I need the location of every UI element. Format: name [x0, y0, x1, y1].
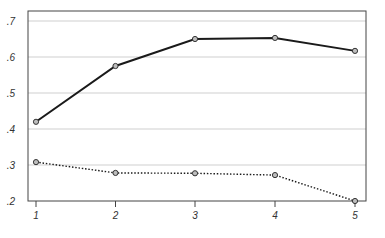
- data-point-marker: [272, 172, 277, 177]
- y-tick-label: .6: [7, 52, 16, 63]
- series-line: [36, 38, 355, 122]
- series-2: [33, 160, 357, 204]
- x-tick-label: 5: [352, 210, 358, 221]
- x-tick-label: 1: [33, 210, 39, 221]
- y-tick-label: .7: [7, 16, 16, 27]
- series-line: [36, 162, 355, 201]
- data-point-marker: [192, 36, 197, 41]
- x-axis-ticks: 12345: [33, 201, 358, 221]
- y-tick-label: .4: [7, 124, 16, 135]
- x-tick-label: 4: [272, 210, 278, 221]
- data-point-marker: [352, 198, 357, 203]
- data-point-marker: [33, 119, 38, 124]
- data-point-marker: [113, 170, 118, 175]
- line-chart: .2.3.4.5.6.7 12345: [0, 0, 385, 238]
- y-tick-label: .3: [7, 160, 16, 171]
- data-point-marker: [192, 171, 197, 176]
- y-tick-label: .2: [7, 196, 16, 207]
- x-tick-label: 3: [192, 210, 198, 221]
- y-tick-label: .5: [7, 88, 16, 99]
- y-axis-ticks: .2.3.4.5.6.7: [7, 16, 16, 207]
- data-point-marker: [33, 160, 38, 165]
- series-group: [33, 35, 357, 203]
- data-point-marker: [352, 48, 357, 53]
- data-point-marker: [113, 63, 118, 68]
- series-1: [33, 35, 357, 124]
- data-point-marker: [272, 35, 277, 40]
- x-tick-label: 2: [112, 210, 119, 221]
